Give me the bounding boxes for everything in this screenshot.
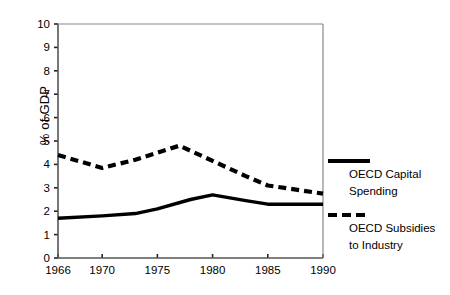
y-tick-label: 4 bbox=[44, 158, 51, 170]
x-tick-label: 1990 bbox=[310, 264, 336, 276]
chart-figure: % of GDP 012345678910 196619701975198019… bbox=[0, 0, 450, 295]
y-tick-label: 0 bbox=[44, 252, 50, 264]
x-tick-label: 1980 bbox=[200, 264, 226, 276]
legend-swatch-solid-icon bbox=[328, 155, 370, 166]
y-tick-label: 10 bbox=[37, 18, 50, 30]
chart-legend: OECD Capital Spending OECD Subsidies to … bbox=[325, 155, 450, 256]
legend-entry-capital-spending: OECD Capital Spending bbox=[325, 155, 450, 200]
legend-label-line2: to Industry bbox=[325, 237, 450, 254]
y-tick-label: 1 bbox=[44, 229, 50, 241]
y-tick-label: 5 bbox=[44, 135, 50, 147]
data-series-layer bbox=[58, 146, 323, 219]
y-tick-label: 6 bbox=[44, 112, 50, 124]
x-tick-label: 1966 bbox=[45, 264, 71, 276]
y-tick-label: 7 bbox=[44, 88, 50, 100]
legend-label-line1: OECD Capital bbox=[325, 166, 450, 183]
y-axis-ticks: 012345678910 bbox=[37, 18, 58, 264]
x-tick-label: 1975 bbox=[145, 264, 171, 276]
series-line-1 bbox=[58, 195, 323, 218]
legend-label-line1: OECD Subsidies bbox=[325, 220, 450, 237]
y-tick-label: 8 bbox=[44, 65, 50, 77]
legend-label-line2: Spending bbox=[325, 183, 450, 200]
x-tick-label: 1985 bbox=[255, 264, 281, 276]
series-line-2 bbox=[58, 146, 323, 194]
y-tick-label: 3 bbox=[44, 182, 50, 194]
y-tick-label: 2 bbox=[44, 205, 50, 217]
legend-swatch-dashed-icon bbox=[328, 209, 370, 220]
y-tick-label: 9 bbox=[44, 41, 50, 53]
legend-entry-subsidies-to-industry: OECD Subsidies to Industry bbox=[325, 209, 450, 254]
x-tick-label: 1970 bbox=[89, 264, 115, 276]
